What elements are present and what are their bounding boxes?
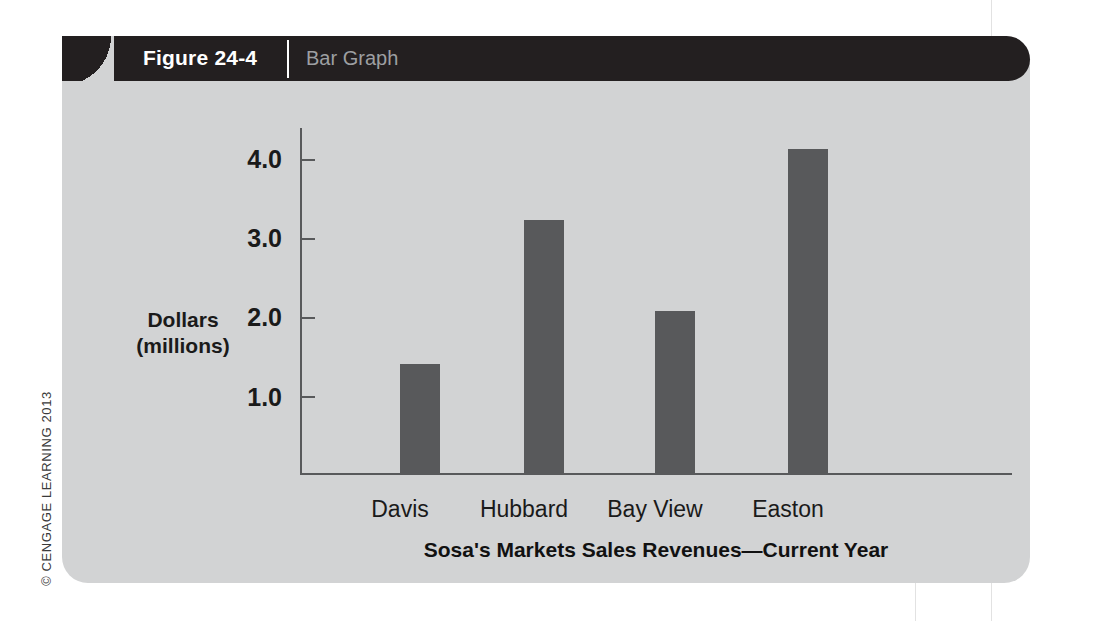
- bar-davis: [400, 364, 440, 473]
- copyright-notice: © CENGAGE LEARNING 2013: [39, 374, 54, 604]
- x-axis-label-easton: Easton: [728, 496, 848, 523]
- plot-area: [300, 128, 1012, 475]
- y-axis-tick-2: [302, 317, 315, 319]
- header-corner-scoop: [62, 36, 114, 82]
- y-axis-title: Dollars (millions): [118, 307, 248, 358]
- bar-hubbard: [524, 220, 564, 473]
- x-axis-label-hubbard: Hubbard: [464, 496, 584, 523]
- bar-bay-view: [655, 311, 695, 473]
- y-axis-tick-3: [302, 238, 315, 240]
- y-axis-tick-1: [302, 396, 315, 398]
- y-tick-label-3: 3.0: [247, 224, 282, 253]
- header-divider: [287, 40, 289, 78]
- y-axis-line: [300, 128, 302, 475]
- x-axis-line: [300, 473, 1012, 475]
- x-axis-label-davis: Davis: [340, 496, 460, 523]
- figure-bar-graph: Figure 24-4 Bar Graph © CENGAGE LEARNING…: [0, 0, 1115, 621]
- x-axis-label-bay-view: Bay View: [595, 496, 715, 523]
- y-axis-title-line-1: Dollars: [118, 307, 248, 333]
- y-tick-label-4: 4.0: [247, 145, 282, 174]
- bar-easton: [788, 149, 828, 473]
- figure-kind-label: Bar Graph: [306, 47, 398, 70]
- y-axis-tick-4: [302, 159, 315, 161]
- y-axis-tick-labels: 4.0 3.0 2.0 1.0: [210, 128, 282, 475]
- chart-title: Sosa's Markets Sales Revenues—Current Ye…: [300, 538, 1012, 562]
- y-tick-label-1: 1.0: [247, 383, 282, 412]
- y-tick-label-2: 2.0: [247, 303, 282, 332]
- y-axis-title-line-2: (millions): [118, 333, 248, 359]
- figure-number-label: Figure 24-4: [143, 46, 257, 70]
